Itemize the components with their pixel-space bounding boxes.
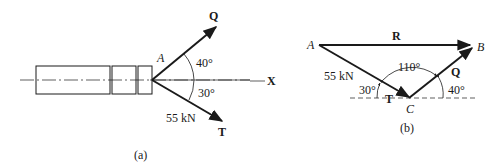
point-b-label: B xyxy=(477,40,485,54)
angle-40-label: 40° xyxy=(448,83,465,97)
caption-a: (a) xyxy=(134,148,147,162)
angle-arc-40 xyxy=(439,78,443,98)
force-q-label: Q xyxy=(451,65,460,79)
t-magnitude-label: 55 kN xyxy=(166,111,196,125)
t-magnitude-label: 55 kN xyxy=(324,69,354,83)
figure-a: A Q T 40° 30° 55 kN (a) xyxy=(20,9,250,162)
caption-b: (b) xyxy=(400,121,414,135)
point-c-label: C xyxy=(406,102,415,116)
angle-110-label: 110° xyxy=(398,60,421,74)
angle-t-label: 30° xyxy=(198,86,215,100)
point-a-label: A xyxy=(306,38,315,52)
force-q-label: Q xyxy=(209,9,218,23)
angle-30-label: 30° xyxy=(359,83,376,97)
x-axis-label: X xyxy=(267,74,276,88)
force-t-label: T xyxy=(385,92,393,106)
force-t-label: T xyxy=(218,125,226,139)
force-diagram: A Q T 40° 30° 55 kN (a) X A B C R Q T 55… xyxy=(0,0,499,167)
point-a-label: A xyxy=(156,51,165,65)
angle-arc-30 xyxy=(377,83,380,98)
resultant-r-label: R xyxy=(392,29,401,43)
angle-arc-40 xyxy=(184,54,194,80)
angle-arc-30 xyxy=(189,80,194,100)
angle-q-label: 40° xyxy=(196,56,213,70)
figure-b: A B C R Q T 55 kN 110° 30° 40° (b) xyxy=(306,29,485,135)
